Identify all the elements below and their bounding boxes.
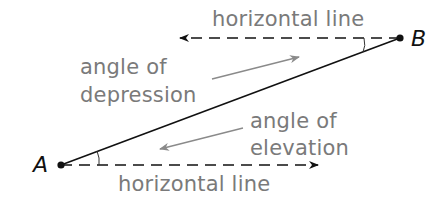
depression-label-line2: depression	[80, 84, 197, 106]
angle-of-elevation-arc	[97, 151, 99, 165]
depression-pointer-arrow	[212, 57, 299, 79]
elevation-pointer-arrow	[160, 128, 243, 149]
point-B-dot	[396, 34, 403, 41]
depression-label-line1: angle of	[80, 56, 167, 78]
point-B-label: B	[411, 28, 426, 50]
elevation-label-line2: elevation	[250, 137, 349, 159]
angle-of-depression-arc	[363, 38, 365, 52]
point-A-label: A	[33, 154, 48, 176]
elevation-label-line1: angle of	[250, 110, 337, 132]
point-A-dot	[57, 161, 64, 168]
top-horizontal-line-label: horizontal line	[212, 8, 364, 30]
bottom-horizontal-line-label: horizontal line	[118, 173, 270, 195]
